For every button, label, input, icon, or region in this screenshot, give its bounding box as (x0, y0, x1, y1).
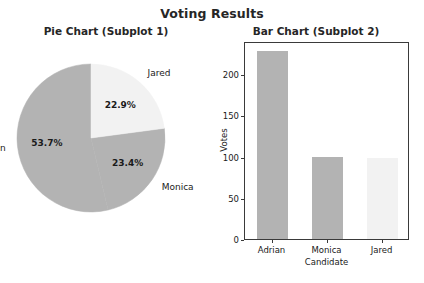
pie-slice-percent-label: 23.4% (112, 158, 143, 168)
bar-chart-plot-area (244, 42, 409, 240)
pie-chart-subplot: 53.7%Adrian23.4%Monica22.9%Jared (8, 40, 204, 240)
figure-suptitle: Voting Results (0, 6, 424, 21)
x-tick-label: Jared (371, 245, 393, 255)
bar (312, 157, 344, 240)
pie-slice-percent-label: 53.7% (31, 138, 62, 148)
y-tick-label: 50 (228, 194, 239, 204)
pie-slice-percent-label: 22.9% (105, 100, 136, 110)
y-tick-label: 100 (223, 153, 239, 163)
pie-slice-name-label: Monica (162, 182, 194, 192)
x-tick-mark (382, 240, 383, 243)
pie-slice-name-label: Adrian (0, 143, 6, 153)
bar (257, 51, 289, 239)
y-tick-label: 200 (223, 70, 239, 80)
pie-slice-name-label: Jared (148, 68, 171, 78)
pie-chart-title: Pie Chart (Subplot 1) (8, 25, 204, 37)
x-tick-mark (272, 240, 273, 243)
bar-chart-x-axis-label: Candidate (305, 257, 348, 267)
bar-chart-title: Bar Chart (Subplot 2) (214, 25, 418, 37)
x-tick-label: Adrian (258, 245, 286, 255)
bar (367, 158, 399, 239)
x-tick-label: Monica (311, 245, 341, 255)
bar-chart-subplot: Votes 050100150200 AdrianMonicaJared Can… (214, 40, 418, 280)
x-tick-mark (327, 240, 328, 243)
y-tick-mark (241, 240, 244, 241)
y-tick-label: 0 (234, 235, 239, 245)
y-tick-label: 150 (223, 111, 239, 121)
figure-canvas: Voting Results Pie Chart (Subplot 1) 53.… (0, 0, 424, 283)
